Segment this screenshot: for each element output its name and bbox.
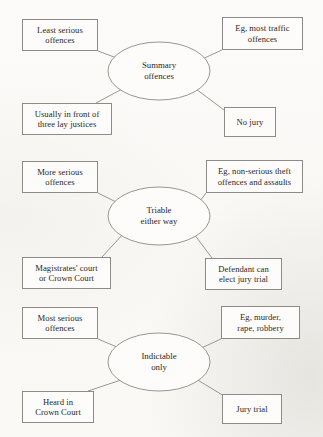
node-box-usually-in-front-of-three-lay-justices: Usually in front of three lay justices [22, 103, 112, 135]
node-box-magistrates-court-or-crown-court: Magistrates' court or Crown Court [22, 257, 111, 289]
connector-line-magistrates-court-or-crown-court [102, 233, 124, 257]
node-box-no-jury: No jury [224, 107, 276, 137]
node-box-heard-in-crown-court: Heard in Crown Court [22, 391, 94, 423]
diagram-page: Summary offencesLeast serious offencesEg… [0, 0, 323, 437]
connector-line-defendant-can-elect-jury-trial [194, 234, 212, 258]
connector-line-jury-trial [196, 379, 224, 396]
diagram-edges-layer [0, 0, 323, 437]
connector-line-no-jury [196, 89, 224, 110]
hub-ellipse-summary-offences [108, 42, 210, 100]
node-box-least-serious-offences: Least serious offences [22, 19, 98, 51]
hub-ellipse-triable-either-way [108, 187, 210, 245]
hub-ellipse-indictable-only [108, 333, 210, 391]
node-box-eg-most-traffic-offences: Eg, most traffic offences [222, 17, 303, 50]
node-box-most-serious-offences: Most serious offences [22, 307, 98, 339]
node-box-defendant-can-elect-jury-trial: Defendant can elect jury trial [205, 258, 282, 290]
node-box-eg-non-serious-theft-offences-and-assaults: Eg, non-serious theft offences and assau… [206, 160, 303, 193]
connector-line-heard-in-crown-court [88, 379, 124, 391]
node-box-jury-trial: Jury trial [222, 394, 282, 424]
connector-line-usually-in-front-of-three-lay-justices [96, 88, 124, 103]
node-box-more-serious-offences: More serious offences [22, 161, 98, 193]
node-box-eg-murder-rape-robbery: Eg, murder, rape, robbery [221, 306, 300, 339]
